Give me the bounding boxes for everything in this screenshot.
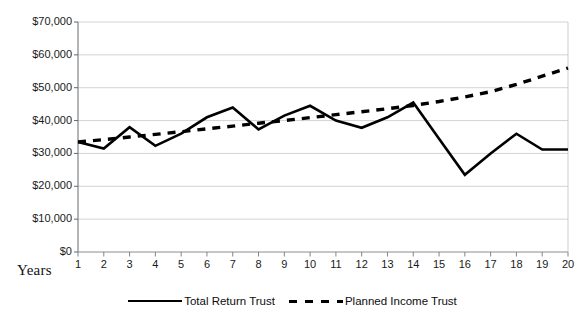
data-series-layer <box>78 68 568 175</box>
y-axis-tick-label: $10,000 <box>0 213 72 224</box>
gridlines <box>78 22 568 252</box>
x-axis-tick-label: 12 <box>349 258 375 270</box>
y-axis-tick-labels: $0$10,000$20,000$30,000$40,000$50,000$60… <box>0 0 72 270</box>
y-axis-tick-label: $60,000 <box>0 49 72 60</box>
x-axis-title: Years <box>17 262 52 279</box>
x-axis-tick-label: 3 <box>117 258 143 270</box>
x-axis-tick-label: 7 <box>220 258 246 270</box>
y-axis-tick-label: $40,000 <box>0 115 72 126</box>
x-axis-tick-label: 13 <box>374 258 400 270</box>
y-axis-tick-label: $50,000 <box>0 82 72 93</box>
chart-legend: Total Return Trust Planned Income Trust <box>0 295 585 307</box>
x-axis-tick-label: 17 <box>478 258 504 270</box>
y-axis-ticks <box>74 22 78 252</box>
x-axis-tick-label: 15 <box>426 258 452 270</box>
y-axis-tick-label: $30,000 <box>0 147 72 158</box>
x-axis-tick-label: 11 <box>323 258 349 270</box>
x-axis-tick-label: 8 <box>246 258 272 270</box>
x-axis-tick-label: 14 <box>400 258 426 270</box>
x-axis-tick-label: 1 <box>65 258 91 270</box>
x-axis-tick-label: 20 <box>555 258 581 270</box>
y-axis-tick-label: $0 <box>0 246 72 257</box>
x-axis-tick-label: 19 <box>529 258 555 270</box>
y-axis-tick-label: $70,000 <box>0 16 72 27</box>
legend-swatch-dashed-line <box>289 296 343 306</box>
legend-label-planned-income-trust: Planned Income Trust <box>345 295 457 307</box>
x-axis-tick-label: 10 <box>297 258 323 270</box>
x-axis-tick-label: 6 <box>194 258 220 270</box>
series-line-total-return-trust <box>78 103 568 175</box>
legend-swatch-solid-line <box>128 296 182 306</box>
x-axis-tick-label: 16 <box>452 258 478 270</box>
chart-container: $0$10,000$20,000$30,000$40,000$50,000$60… <box>0 0 585 327</box>
x-axis-tick-label: 18 <box>503 258 529 270</box>
series-line-planned-income-trust <box>78 68 568 142</box>
legend-label-total-return-trust: Total Return Trust <box>184 295 275 307</box>
x-axis-ticks <box>78 252 568 257</box>
x-axis-tick-labels: 1234567891011121314151617181920 <box>0 258 585 288</box>
axis-lines <box>78 22 568 252</box>
x-axis-tick-label: 4 <box>142 258 168 270</box>
legend-item-planned-income-trust: Planned Income Trust <box>289 295 457 307</box>
legend-item-total-return-trust: Total Return Trust <box>128 295 275 307</box>
y-axis-tick-label: $20,000 <box>0 180 72 191</box>
x-axis-tick-label: 9 <box>271 258 297 270</box>
x-axis-tick-label: 2 <box>91 258 117 270</box>
x-axis-tick-label: 5 <box>168 258 194 270</box>
